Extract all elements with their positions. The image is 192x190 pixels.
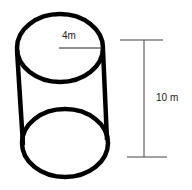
cylinder-diagram: 4m 10 m (0, 0, 192, 190)
height-label: 10 m (156, 92, 178, 103)
radius-label: 4m (62, 30, 76, 41)
bottom-ellipse (22, 109, 108, 177)
